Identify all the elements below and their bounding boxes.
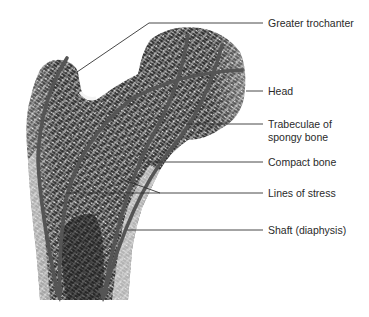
label-greater-trochanter: Greater trochanter <box>268 17 354 30</box>
label-lines-of-stress: Lines of stress <box>268 187 336 200</box>
label-trabeculae-line1: Trabeculae of <box>268 118 332 131</box>
label-compact-bone: Compact bone <box>268 156 336 169</box>
label-trabeculae: Trabeculae of spongy bone <box>268 118 332 143</box>
label-head: Head <box>268 85 293 98</box>
label-trabeculae-line2: spongy bone <box>268 131 332 144</box>
label-shaft: Shaft (diaphysis) <box>268 224 346 237</box>
